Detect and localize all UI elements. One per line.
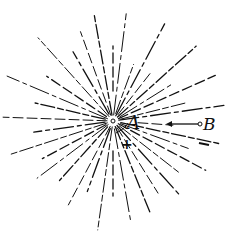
field-line [35,103,105,119]
field-line [3,117,107,121]
field-line [116,65,134,114]
field-line [37,125,108,179]
charge-a-point [111,119,115,123]
field-line [87,129,110,192]
field-line [10,123,107,154]
field-line [118,46,197,117]
plus-sign: + [121,136,133,152]
charge-b-point [198,122,202,126]
field-line [94,15,112,116]
field-line [7,76,107,119]
field-line [60,127,108,181]
arrow-head-icon [166,121,172,127]
minus-sign [199,143,209,145]
field-line [42,125,106,159]
label-b: B [202,114,216,134]
field-line [68,126,110,205]
field-lines-diagram: A + B [0,0,244,244]
label-a: A [125,112,140,133]
